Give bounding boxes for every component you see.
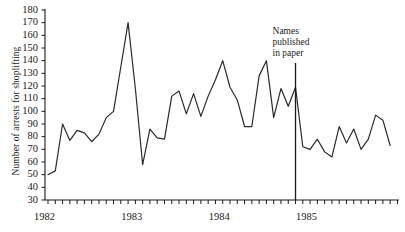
x-axis-tick-label: 1982 xyxy=(34,211,55,222)
annotation-line: in paper xyxy=(273,48,310,59)
shoplifting-arrests-chart: Number of arrests for shoplifting 180170… xyxy=(0,0,405,232)
plot-area xyxy=(0,0,405,232)
x-axis-tick-label: 1985 xyxy=(296,211,317,222)
x-axis-tick-label: 1983 xyxy=(121,211,142,222)
x-axis-tick-label: 1984 xyxy=(209,211,230,222)
annotation-line: published xyxy=(273,37,310,48)
data-series-line xyxy=(48,23,390,175)
annotation-line: Names xyxy=(273,26,310,37)
intervention-annotation-label: Namespublishedin paper xyxy=(273,26,310,60)
